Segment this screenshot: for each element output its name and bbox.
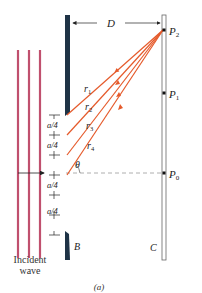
spacing-label-4: a/4 (47, 206, 59, 216)
screen-label: C (150, 242, 157, 253)
rays (67, 30, 163, 175)
point-p2-label: P2 (168, 25, 180, 39)
barrier-label: B (74, 241, 80, 252)
ray-r2-label: r2 (85, 101, 92, 113)
point-p1-label: P1 (168, 88, 180, 102)
slit-spacing-markers (49, 115, 60, 235)
screen-c (162, 15, 166, 260)
point-p2-marker (163, 29, 166, 32)
ray-r4-label: r4 (87, 140, 95, 152)
incident-wave-label-line2: wave (19, 265, 41, 276)
spacing-label-3: a/4 (47, 180, 59, 190)
figure-caption: (a) (94, 282, 105, 292)
spacing-label-1: a/4 (47, 120, 59, 130)
spacing-label-2: a/4 (47, 140, 59, 150)
angle-theta-label: θ (75, 159, 80, 170)
point-p0-label: P0 (168, 168, 180, 182)
incident-wavefronts (18, 50, 40, 258)
barrier-b (65, 15, 70, 260)
incident-wave-label-line1: Incident (14, 254, 47, 265)
ray-r1-label: r1 (84, 83, 91, 95)
distance-label: D (106, 17, 115, 29)
point-p0-marker (163, 172, 166, 175)
point-p1-marker (163, 92, 166, 95)
double-slit-diagram: D P2 P1 P0 r1 r2 r3 r4 θ (0, 0, 202, 293)
